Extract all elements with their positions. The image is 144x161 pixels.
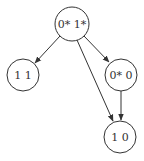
node-label: 1 1 bbox=[14, 69, 32, 82]
edge-n0-n1 bbox=[35, 36, 60, 63]
node-0star-0: 0* 0 bbox=[105, 59, 137, 91]
edge-n0-n2 bbox=[84, 36, 109, 62]
node-label: 1 0 bbox=[111, 131, 129, 144]
node-label: 0* 0 bbox=[110, 69, 133, 82]
graph-canvas: 0* 1* 1 1 0* 0 1 0 bbox=[0, 0, 144, 161]
node-0star-1star: 0* 1* bbox=[55, 7, 89, 41]
node-10: 1 0 bbox=[104, 121, 136, 153]
node-11: 1 1 bbox=[7, 59, 39, 91]
node-label: 0* 1* bbox=[58, 18, 87, 31]
